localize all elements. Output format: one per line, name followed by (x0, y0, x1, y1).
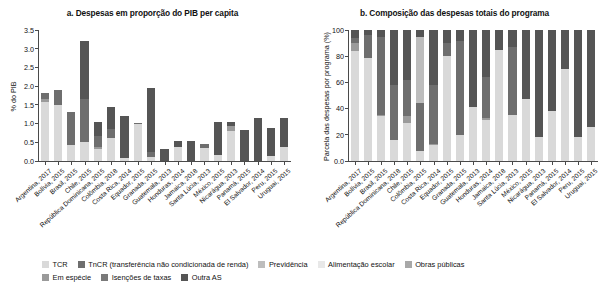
legend-tcr: TCR (42, 260, 68, 269)
a-plot-xtick-mark (244, 162, 245, 165)
bar-panel-a-9 (160, 149, 168, 161)
bar-segment-tncr (429, 85, 437, 144)
b-plot-xtick-mark (473, 162, 474, 165)
bar-panel-a-7 (134, 123, 142, 161)
legend-isencoes-de-taxas: Isenções de taxas (101, 273, 171, 282)
bar-panel-a-6 (120, 116, 128, 161)
bar-panel-a-1 (54, 90, 62, 161)
bar-segment-em-esp-cie (351, 43, 359, 51)
a-plot-xtick-mark (178, 162, 179, 165)
bar-segment-tcr (227, 131, 235, 161)
bar-segment-outra-as (214, 122, 222, 156)
bar-segment-outra-as (107, 107, 115, 129)
a-plot-ytick-label: 3.5 (18, 26, 34, 35)
a-plot-xtick-mark (258, 162, 259, 165)
panel-a: a. Despesas em proporção do PIB per capi… (0, 0, 305, 250)
a-plot-ytick-label: 0.5 (18, 138, 34, 147)
bar-segment-outra-as (147, 88, 155, 152)
b-plot-ytick-label: 80 (327, 52, 344, 61)
bar-panel-a-17 (267, 128, 275, 161)
bar-segment-tcr (134, 124, 142, 161)
bar-segment-tcr (80, 142, 88, 161)
a-plot-ytick-label: 2.0 (18, 82, 34, 91)
bar-segment-tncr (54, 90, 62, 105)
a-plot-xtick-mark (284, 162, 285, 165)
bar-segment-em-esp-cie (403, 116, 411, 123)
bar-segment-tcr (147, 157, 155, 161)
bar-segment-tcr (587, 127, 595, 161)
bar-segment-tcr (120, 158, 128, 161)
bar-panel-a-18 (280, 118, 288, 161)
bar-panel-b-6 (429, 30, 437, 161)
a-plot-ytick-label: 1.5 (18, 101, 34, 110)
bar-segment-tcr (561, 69, 569, 161)
bar-panel-a-2 (67, 112, 75, 161)
bar-panel-a-8 (147, 88, 155, 161)
a-plot-xtick-mark (98, 162, 99, 165)
b-plot-xtick-mark (368, 162, 369, 165)
bar-segment-outra-as (469, 30, 477, 107)
bar-segment-tncr (456, 41, 464, 135)
bar-segment-tncr (377, 37, 385, 114)
figure-legend: TCRTnCR (transferência não condicionada … (0, 254, 609, 294)
bar-segment-outra-as (429, 30, 437, 85)
b-plot-ytick-label: 40 (327, 104, 344, 113)
legend-previdencia-label: Previdência (269, 260, 308, 269)
bar-segment-outra-as (508, 30, 516, 47)
a-plot-ytick-label: 1.0 (18, 119, 34, 128)
bar-segment-tcr (214, 155, 222, 161)
bar-panel-a-4 (94, 122, 102, 161)
bar-panel-b-8 (456, 30, 464, 161)
bar-segment-outra-as (120, 116, 128, 158)
bar-panel-b-10 (482, 30, 490, 161)
panel-a-y-axis-label: % do PIB (9, 75, 18, 119)
bar-segment-outra-as (240, 130, 248, 161)
a-plot-xtick-mark (138, 162, 139, 165)
bar-segment-tcr (41, 102, 49, 161)
bar-segment-tcr (456, 135, 464, 161)
legend-tcr-swatch-icon (42, 261, 49, 268)
bar-panel-b-12 (508, 30, 516, 161)
panel-b-y-axis-label: Parcela das despesas por programa (%) (322, 27, 331, 167)
bar-panel-b-18 (587, 30, 595, 161)
legend-previdencia-swatch-icon (258, 261, 265, 268)
legend-em-especie: Em espécie (42, 273, 91, 282)
bar-panel-b-9 (469, 30, 477, 161)
bar-segment-outra-as (495, 30, 503, 50)
bar-segment-tcr (364, 58, 372, 161)
bar-panel-a-0 (41, 93, 49, 161)
b-plot-ytick-label: 0.0 (327, 157, 344, 166)
bar-segment-tcr (390, 140, 398, 161)
b-plot-xtick-mark (539, 162, 540, 165)
panel-a-title: a. Despesas em proporção do PIB per capi… (0, 8, 305, 18)
legend-alimentacao-escolar: Alimentação escolar (318, 260, 395, 269)
bar-panel-b-1 (364, 30, 372, 161)
b-plot-xtick-mark (394, 162, 395, 165)
bar-segment-tcr (574, 137, 582, 161)
legend-tncr-swatch-icon (78, 261, 85, 268)
bar-segment-previd-ncia (416, 37, 424, 104)
b-plot-xtick-mark (499, 162, 500, 165)
bar-panel-b-5 (416, 30, 424, 161)
bar-panel-a-16 (254, 118, 262, 161)
b-plot-xtick-mark (420, 162, 421, 165)
b-plot-xtick-mark (526, 162, 527, 165)
b-plot-xtick-mark (407, 162, 408, 165)
b-plot-xtick-mark (552, 162, 553, 165)
bar-segment-outra-as (187, 141, 195, 161)
bar-segment-outra-as (535, 30, 543, 137)
bar-segment-outra-as (351, 30, 359, 38)
bar-segment-tncr (67, 112, 75, 145)
a-plot-xtick-mark (231, 162, 232, 165)
legend-outra-as: Outra AS (181, 273, 222, 282)
bar-segment-tcr (522, 99, 530, 161)
b-plot-xtick-mark (381, 162, 382, 165)
a-plot-xtick-mark (151, 162, 152, 165)
bar-segment-tcr (54, 105, 62, 161)
bar-segment-tcr (495, 50, 503, 161)
bar-segment-tcr (508, 115, 516, 161)
bar-segment-tncr (107, 129, 115, 138)
bar-segment-tncr (364, 35, 372, 57)
bar-segment-tcr (107, 138, 115, 161)
b-plot-xtick-mark (512, 162, 513, 165)
